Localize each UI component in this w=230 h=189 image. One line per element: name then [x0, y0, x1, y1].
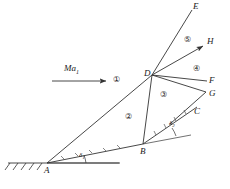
mach-number-label: Ma1	[64, 64, 79, 75]
point-label-f: F	[209, 76, 215, 85]
diagram-canvas	[0, 0, 230, 189]
region-label-4: ④	[193, 65, 200, 73]
angle-label-delta1: δ1	[79, 152, 85, 160]
wave-line-gc	[170, 92, 206, 124]
point-label-g: G	[209, 89, 216, 98]
point-label-a: A	[44, 166, 50, 175]
shock-line-ad	[47, 75, 152, 163]
point-label-d: D	[144, 69, 151, 78]
point-label-h: H	[207, 37, 214, 46]
point-label-c: C	[194, 107, 200, 116]
region-label-1: ①	[113, 76, 120, 84]
wall-hatching	[5, 163, 42, 170]
point-label-b: B	[140, 147, 146, 156]
wedge-surface-ab	[47, 144, 143, 163]
region-label-2: ②	[125, 113, 132, 121]
shock-interaction-diagram: Ma1 A B C D E F G H ① ② ③ ④ ⑤ δ1 δ2	[0, 0, 230, 189]
surface-ab-hatching	[61, 145, 120, 159]
point-label-e: E	[193, 2, 199, 11]
angle-arc-delta2	[172, 128, 176, 136]
angle-label-delta2: δ2	[169, 120, 175, 128]
shock-line-bd	[143, 75, 152, 144]
region-label-5: ⑤	[184, 36, 191, 44]
region-label-3: ③	[160, 91, 167, 99]
